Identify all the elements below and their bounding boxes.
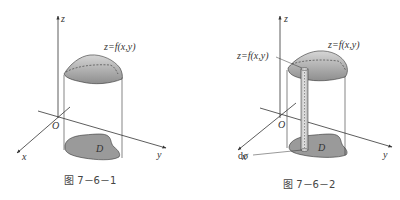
origin-label-1: O: [52, 121, 59, 131]
d-sigma-label: dσ: [238, 151, 248, 161]
z-axis-label-1: z: [61, 14, 65, 24]
x-axis-1: [17, 107, 70, 153]
column-bottom: [301, 149, 308, 152]
diagram-canvas: [0, 0, 400, 200]
surface-cap-1: [64, 55, 122, 84]
region-d-1: [65, 134, 120, 160]
y-axis-label-2: y: [383, 150, 387, 160]
surface-column-label-2: z=f(x,y): [237, 51, 268, 61]
figure-1: [17, 16, 166, 160]
y-axis-label-1: y: [157, 150, 161, 160]
z-axis-label-2: z: [284, 14, 288, 24]
region-label-1: D: [96, 144, 103, 154]
caption-figure-2: 图 7－6－2: [283, 180, 335, 190]
region-label-2: D: [318, 143, 325, 153]
figure-2: [238, 16, 392, 157]
x-axis-label-1: x: [22, 152, 26, 162]
surface-label-1: z=f(x,y): [104, 42, 135, 52]
caption-figure-1: 图 7－6－1: [64, 176, 116, 186]
column-top: [301, 68, 308, 71]
origin-label-2: O: [278, 120, 285, 130]
surface-top-label-2: z=f(x,y): [328, 40, 359, 50]
